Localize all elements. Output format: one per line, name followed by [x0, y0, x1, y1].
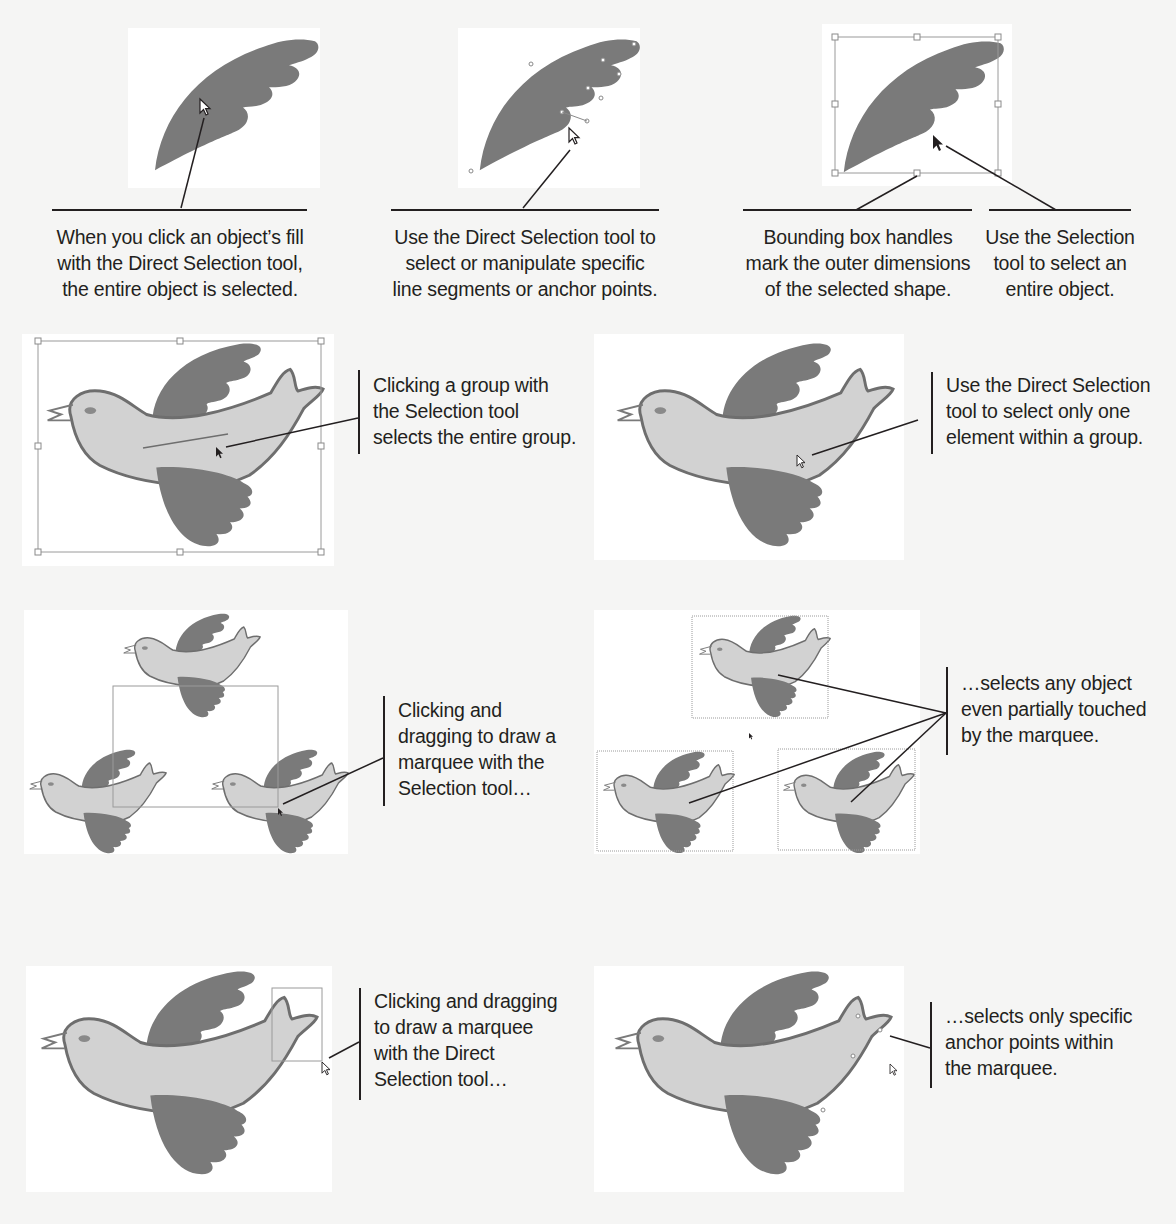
caption-marquee-direct: Clicking and dragging to draw a marquee …: [374, 988, 574, 1092]
caption-direct-segments: Use the Direct Selection tool to select …: [378, 224, 672, 302]
caption-bounding-box: Bounding box handles mark the outer dime…: [738, 224, 978, 302]
caption-rule: [989, 209, 1131, 211]
caption-selection-tool: Use the Selection tool to select an enti…: [982, 224, 1138, 302]
caption-rule: [52, 209, 307, 211]
caption-marquee-selection-result: …selects any object even partially touch…: [961, 670, 1173, 748]
illustration-marquee-direct: [26, 966, 332, 1192]
caption-bar: [359, 988, 361, 1100]
caption-direct-fill: When you click an object’s fill with the…: [40, 224, 320, 302]
caption-marquee-direct-result: …selects only specific anchor points wit…: [945, 1003, 1165, 1081]
caption-rule: [391, 209, 659, 211]
caption-bar: [383, 696, 385, 806]
caption-marquee-selection: Clicking and dragging to draw a marquee …: [398, 697, 578, 801]
illustration-group-selection: [22, 334, 334, 566]
caption-bar: [946, 667, 948, 755]
illustration-wing-bounding-box: [822, 24, 1012, 186]
illustration-wing-direct-fill: [128, 28, 320, 188]
illustration-group-direct: [594, 334, 904, 560]
caption-bar: [358, 370, 360, 454]
illustration-marquee-direct-result: [594, 966, 904, 1192]
caption-bar: [930, 1002, 932, 1088]
caption-bar: [931, 372, 933, 454]
illustration-wing-direct-segments: [458, 28, 640, 188]
illustration-marquee-selection-result: [594, 610, 920, 854]
illustration-marquee-selection: [24, 610, 348, 854]
caption-group-direct: Use the Direct Selection tool to select …: [946, 372, 1171, 450]
caption-rule: [743, 209, 972, 211]
caption-group-selection: Clicking a group with the Selection tool…: [373, 372, 603, 450]
